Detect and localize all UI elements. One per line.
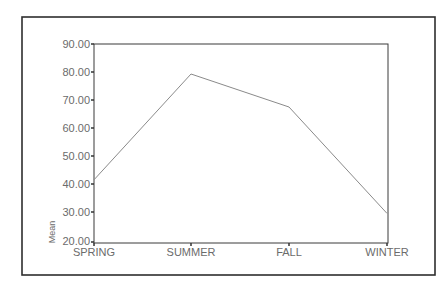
y-tick-label: 40.00: [62, 178, 90, 190]
plot-area-border: [94, 44, 388, 243]
y-tick-label: 50.00: [62, 150, 90, 162]
y-tick-label: 30.00: [62, 206, 90, 218]
y-axis: 90.00 80.00 70.00 60.00 50.00 40.00 30.0…: [47, 38, 94, 247]
y-axis-title: Mean: [47, 221, 57, 244]
y-tick-label: 60.00: [62, 122, 90, 134]
x-tick-label: WINTER: [365, 246, 408, 258]
mean-series-line: [94, 74, 387, 213]
y-tick-label: 80.00: [62, 66, 90, 78]
y-tick-label: 90.00: [62, 38, 90, 50]
x-tick-label: SUMMER: [167, 246, 216, 258]
x-tick-label: FALL: [276, 246, 302, 258]
x-axis: SPRING SUMMER FALL WINTER: [73, 243, 409, 258]
y-tick-label: 70.00: [62, 94, 90, 106]
x-tick-label: SPRING: [73, 246, 115, 258]
line-chart: 90.00 80.00 70.00 60.00 50.00 40.00 30.0…: [0, 0, 443, 287]
